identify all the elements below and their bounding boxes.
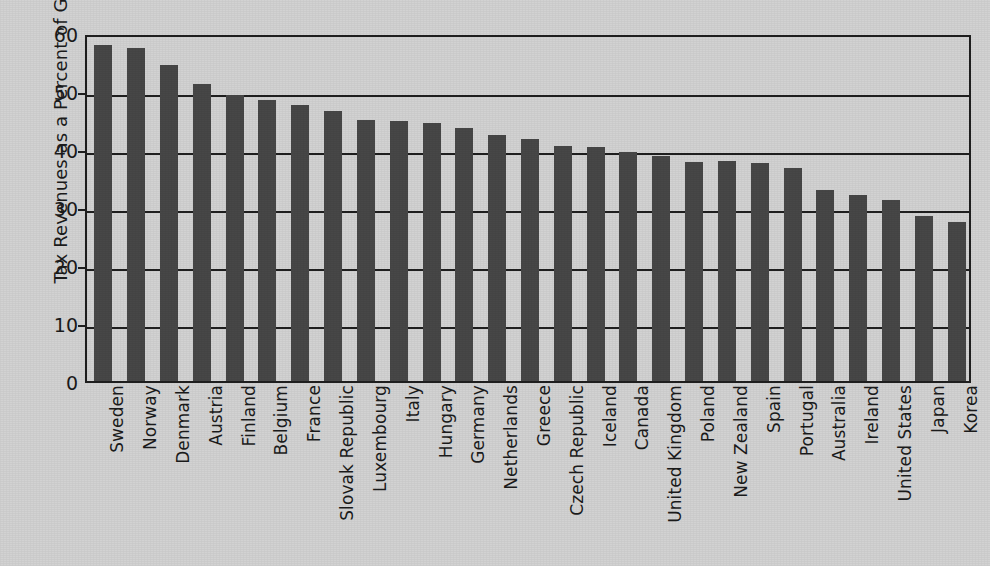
bar <box>357 120 375 381</box>
bar <box>390 121 408 381</box>
bar <box>816 190 834 381</box>
bar <box>291 105 309 381</box>
bar <box>94 45 112 381</box>
y-axis-tick-mark <box>78 209 85 211</box>
x-axis-tick-labels: SwedenNorwayDenmarkAustriaFinlandBelgium… <box>85 385 971 566</box>
y-axis-tick-label: 10 <box>32 314 78 336</box>
x-axis-tick-label: Hungary <box>436 385 456 458</box>
x-axis-tick-label: Norway <box>140 385 160 450</box>
y-axis-tick-mark <box>78 93 85 95</box>
x-axis-tick-label: Ireland <box>862 385 882 445</box>
x-axis-tick-label: Portugal <box>797 385 817 456</box>
x-axis-tick-label: Canada <box>632 385 652 450</box>
x-axis-tick-label: Greece <box>534 385 554 446</box>
x-axis-tick-label: Korea <box>961 385 981 434</box>
y-axis-tick-label: 60 <box>32 24 78 46</box>
bar <box>587 147 605 381</box>
y-axis-tick-label: 50 <box>32 82 78 104</box>
x-axis-tick-label: Netherlands <box>501 385 521 490</box>
bar <box>751 163 769 381</box>
y-axis-tick-label: 40 <box>32 140 78 162</box>
bar-chart-figure: Tax Revenues as a Percent of GDP 0102030… <box>0 0 990 566</box>
x-axis-tick-label: Spain <box>764 385 784 433</box>
x-axis-tick-label: Luxembourg <box>370 385 390 492</box>
plot-area <box>85 35 971 383</box>
x-axis-tick-label: United States <box>895 385 915 501</box>
x-axis-tick-label: Czech Republic <box>567 385 587 516</box>
y-axis-tick-mark <box>78 267 85 269</box>
bar <box>324 111 342 381</box>
bar <box>521 139 539 381</box>
x-axis-tick-label: Iceland <box>600 385 620 447</box>
bar <box>455 128 473 381</box>
bar <box>619 152 637 381</box>
x-axis-tick-label: New Zealand <box>731 385 751 498</box>
x-axis-tick-label: Belgium <box>271 385 291 455</box>
x-axis-tick-label: Germany <box>468 385 488 464</box>
y-axis-tick-mark <box>78 325 85 327</box>
y-axis-tick-label: 0 <box>32 372 78 394</box>
bar <box>652 156 670 381</box>
y-axis-tick-mark <box>78 151 85 153</box>
y-axis-tick-label: 30 <box>32 198 78 220</box>
x-axis-tick-label: Denmark <box>173 385 193 464</box>
y-axis-tick-labels: 0102030405060 <box>22 35 78 383</box>
bars-container <box>87 37 969 381</box>
bar <box>423 123 441 381</box>
x-axis-tick-label: Australia <box>829 385 849 461</box>
bar <box>685 162 703 381</box>
x-axis-tick-label: Austria <box>206 385 226 446</box>
x-axis-tick-label: Italy <box>403 385 423 422</box>
bar <box>160 65 178 381</box>
x-axis-tick-label: France <box>304 385 324 442</box>
x-axis-tick-label: Finland <box>239 385 259 446</box>
bar <box>882 200 900 381</box>
bar <box>193 84 211 381</box>
y-axis-tick-label: 20 <box>32 256 78 278</box>
x-axis-tick-label: Japan <box>928 385 948 433</box>
x-axis-tick-label: United Kingdom <box>665 385 685 523</box>
bar <box>718 161 736 381</box>
bar <box>226 95 244 381</box>
bar <box>784 168 802 381</box>
bar <box>258 100 276 381</box>
x-axis-tick-label: Slovak Republic <box>337 385 357 521</box>
bar <box>948 222 966 381</box>
x-axis-tick-label: Sweden <box>107 385 127 453</box>
bar <box>127 48 145 382</box>
bar <box>554 146 572 381</box>
bar <box>849 195 867 381</box>
bar <box>915 216 933 381</box>
bar <box>488 135 506 381</box>
x-axis-tick-label: Poland <box>698 385 718 442</box>
